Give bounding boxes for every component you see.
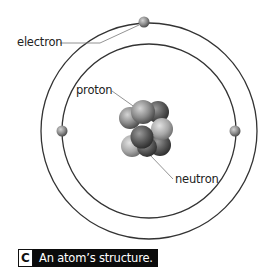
- proton-label: proton: [76, 85, 112, 97]
- electron-left: [57, 126, 68, 137]
- figure-caption: C An atom’s structure.: [18, 249, 158, 267]
- caption-text: An atom’s structure.: [33, 249, 158, 267]
- nucleus: [119, 100, 173, 157]
- neutron-leader-line: [150, 155, 173, 179]
- electron-label: electron: [17, 37, 62, 49]
- proton-leader-line: [112, 91, 136, 108]
- electron-right: [230, 126, 241, 137]
- caption-letter: C: [18, 249, 33, 267]
- electron-leader-line: [60, 25, 139, 43]
- electron-top: [139, 17, 150, 28]
- neutron-label: neutron: [175, 174, 219, 186]
